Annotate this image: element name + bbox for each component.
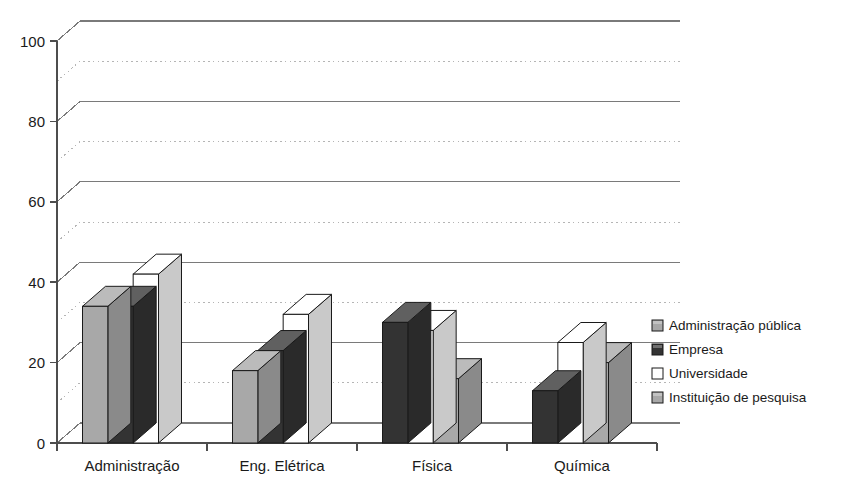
x-tick-label: Química <box>554 457 611 474</box>
y-tick-label: 40 <box>28 274 45 291</box>
y-axis <box>50 41 57 443</box>
chart-legend: Administração públicaEmpresaUniversidade… <box>652 318 807 405</box>
legend-item: Empresa <box>652 342 724 357</box>
legend-label: Universidade <box>669 366 748 381</box>
x-tick-label: Administração <box>84 457 179 474</box>
x-tick-label: Eng. Elétrica <box>239 457 325 474</box>
x-axis <box>57 443 657 451</box>
legend-swatch <box>652 368 663 379</box>
y-tick-labels: 020406080100 <box>20 33 45 452</box>
chart-canvas: 020406080100 AdministraçãoEng. ElétricaF… <box>0 0 841 485</box>
legend-label: Administração pública <box>669 318 802 333</box>
legend-label: Empresa <box>669 342 724 357</box>
y-tick-label: 100 <box>20 33 45 50</box>
x-tick-label: Física <box>412 457 453 474</box>
y-tick-label: 80 <box>28 113 45 130</box>
y-tick-label: 20 <box>28 354 45 371</box>
legend-label: Instituição de pesquisa <box>669 390 807 405</box>
legend-item: Universidade <box>652 366 748 381</box>
bar-chart-figure: 020406080100 AdministraçãoEng. ElétricaF… <box>0 0 841 485</box>
y-tick-label: 0 <box>37 435 45 452</box>
bar-3-2 <box>383 302 431 443</box>
legend-item: Instituição de pesquisa <box>652 390 807 405</box>
bars-group <box>83 254 632 443</box>
legend-item: Administração pública <box>652 318 802 333</box>
bar-2-1 <box>233 351 281 443</box>
bar-1-1 <box>83 286 131 443</box>
y-tick-label: 60 <box>28 193 45 210</box>
x-tick-labels: AdministraçãoEng. ElétricaFísicaQuímica <box>84 457 610 474</box>
